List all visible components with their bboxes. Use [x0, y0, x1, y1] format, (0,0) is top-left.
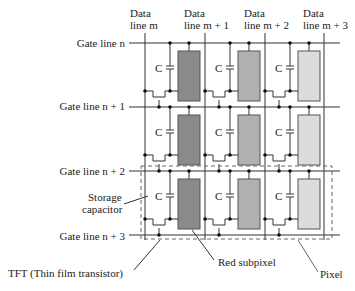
junction-dot — [168, 169, 172, 173]
pixel-label: Pixel — [320, 268, 343, 280]
junction-dot — [288, 153, 292, 157]
capacitor-label: C — [155, 62, 162, 74]
junction-dot — [168, 105, 172, 109]
capacitor-label: C — [275, 126, 282, 138]
junction-dot — [288, 105, 292, 109]
storage-capacitor-label-2: capacitor — [82, 203, 123, 215]
subpixel — [298, 115, 320, 165]
junction-dot — [168, 217, 172, 221]
data-line-m-label-2: line m — [130, 19, 158, 31]
junction-dot — [228, 169, 232, 173]
subpixel — [178, 179, 200, 229]
data-line-m-label-1: Data — [130, 7, 151, 19]
capacitor-label: C — [155, 126, 162, 138]
junction-dot — [187, 41, 191, 45]
data-line-m1-label-2: line m + 1 — [184, 19, 229, 31]
junction-dot — [143, 153, 147, 157]
junction-dot — [307, 105, 311, 109]
junction-dot — [157, 169, 161, 173]
storage-arrow — [124, 196, 148, 204]
junction-dot — [263, 153, 267, 157]
storage-capacitor-label-1: Storage — [88, 191, 122, 203]
subpixel — [298, 51, 320, 101]
junction-dot — [187, 169, 191, 173]
junction-dot — [247, 41, 251, 45]
gate-line-n2-label: Gate line n + 2 — [60, 165, 125, 177]
junction-dot — [168, 41, 172, 45]
junction-dot — [217, 169, 221, 173]
data-line-m3-label-1: Data — [303, 7, 324, 19]
subpixel — [178, 115, 200, 165]
junction-dot — [247, 105, 251, 109]
data-line-m2-label-1: Data — [244, 7, 265, 19]
junction-dot — [288, 169, 292, 173]
junction-dot — [203, 89, 207, 93]
capacitor-label: C — [275, 62, 282, 74]
capacitor-label: C — [215, 190, 222, 202]
gate-line-n3-label: Gate line n + 3 — [60, 230, 126, 242]
red-subpixel-label: Red subpixel — [218, 256, 276, 268]
junction-dot — [228, 105, 232, 109]
gate-line-n1-label: Gate line n + 1 — [60, 100, 125, 112]
subpixel — [238, 179, 260, 229]
gate-line-n-label: Gate line n — [77, 37, 126, 49]
junction-dot — [307, 169, 311, 173]
capacitor-label: C — [275, 190, 282, 202]
junction-dot — [277, 169, 281, 173]
junction-dot — [203, 153, 207, 157]
junction-dot — [228, 41, 232, 45]
junction-dot — [187, 105, 191, 109]
subpixel — [238, 115, 260, 165]
junction-dot — [288, 89, 292, 93]
junction-dot — [263, 89, 267, 93]
data-line-m1-label-1: Data — [184, 7, 205, 19]
junction-dot — [263, 217, 267, 221]
junction-dot — [168, 153, 172, 157]
capacitor-label: C — [155, 190, 162, 202]
capacitor-label: C — [215, 62, 222, 74]
diagram-canvas: Data line m Data line m + 1 Data line m … — [0, 0, 355, 291]
junction-dot — [277, 105, 281, 109]
junction-dot — [157, 105, 161, 109]
tft-lcd-array-diagram: Data line m Data line m + 1 Data line m … — [0, 0, 355, 291]
junction-dot — [143, 89, 147, 93]
junction-dot — [228, 89, 232, 93]
junction-dot — [217, 105, 221, 109]
subpixel — [238, 51, 260, 101]
tft-arrow — [134, 240, 160, 270]
pixel-arrow — [298, 240, 318, 272]
junction-dot — [277, 233, 281, 237]
data-line-labels: Data line m Data line m + 1 Data line m … — [130, 7, 349, 31]
tft-label: TFT (Thin film transistor) — [8, 267, 123, 280]
junction-dot — [217, 233, 221, 237]
junction-dot — [228, 217, 232, 221]
junction-dot — [288, 41, 292, 45]
junction-dot — [143, 217, 147, 221]
junction-dot — [168, 89, 172, 93]
subpixel — [178, 51, 200, 101]
capacitor-label: C — [215, 126, 222, 138]
data-line-m3-label-2: line m + 3 — [303, 19, 349, 31]
junction-dot — [228, 153, 232, 157]
subpixel — [298, 179, 320, 229]
junction-dot — [288, 217, 292, 221]
junction-dot — [203, 217, 207, 221]
junction-dot — [157, 233, 161, 237]
junction-dot — [247, 169, 251, 173]
data-line-m2-label-2: line m + 2 — [244, 19, 289, 31]
junction-dot — [307, 41, 311, 45]
